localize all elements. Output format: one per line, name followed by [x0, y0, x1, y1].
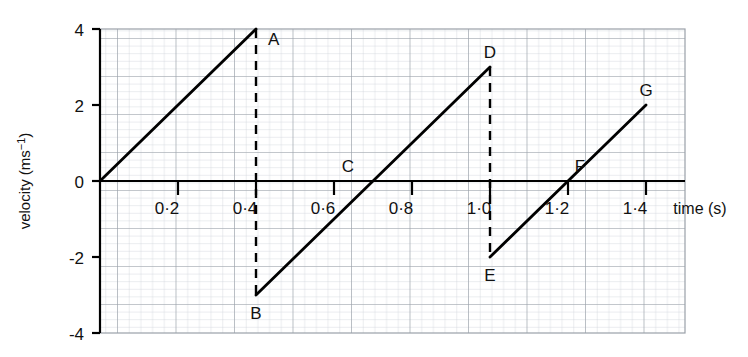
- velocity-time-graph-figure: 4 2 0 -2 -4 0·2 0·4 0·6 0·8 1·0 1·2 1·4 …: [0, 0, 748, 357]
- x-tick-label-0-8: 0·8: [389, 199, 414, 218]
- x-tick-label-0-4: 0·4: [233, 199, 258, 218]
- x-axis-title: time (s): [673, 200, 726, 217]
- x-tick-label-0-2: 0·2: [155, 199, 180, 218]
- svg-text:velocity (ms−1): velocity (ms−1): [15, 133, 33, 230]
- point-label-e: E: [484, 266, 495, 285]
- point-label-g: G: [639, 81, 652, 100]
- x-tick-label-1-0: 1·0: [467, 199, 492, 218]
- y-tick-label-4: 4: [75, 21, 84, 40]
- x-tick-label-0-6: 0·6: [311, 199, 336, 218]
- point-label-f: F: [575, 157, 585, 176]
- y-tick-label-2: 2: [75, 97, 84, 116]
- point-label-b: B: [250, 304, 261, 323]
- y-axis-title-superscript: −1: [15, 138, 27, 151]
- y-axis-title-close: ): [16, 133, 33, 138]
- y-tick-label-0: 0: [75, 173, 84, 192]
- y-tick-label-minus-2: -2: [69, 249, 84, 268]
- x-tick-label-1-4: 1·4: [623, 199, 648, 218]
- chart-canvas: 4 2 0 -2 -4 0·2 0·4 0·6 0·8 1·0 1·2 1·4 …: [0, 0, 748, 357]
- point-label-c: C: [342, 157, 354, 176]
- y-axis-title: velocity (ms−1): [15, 133, 33, 230]
- y-axis-title-main: velocity (ms: [16, 150, 33, 229]
- point-label-d: D: [484, 43, 496, 62]
- y-tick-label-minus-4: -4: [69, 325, 84, 344]
- point-label-a: A: [268, 30, 280, 49]
